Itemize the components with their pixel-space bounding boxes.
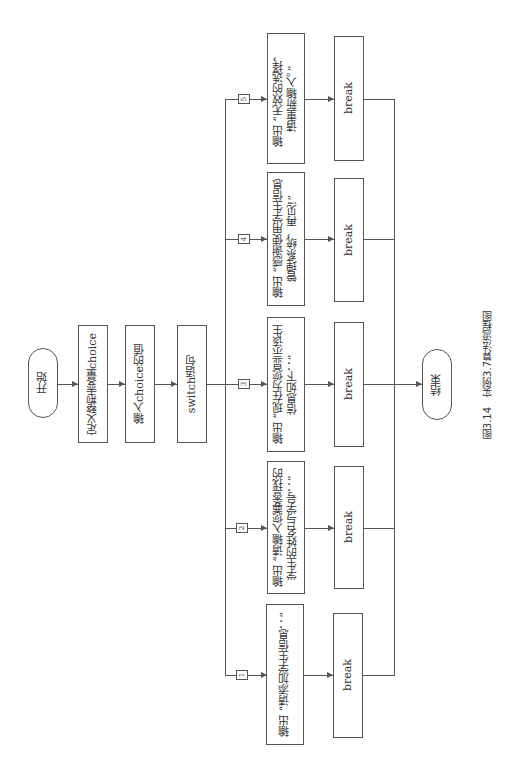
- case-2-action: 输出 “请输入您要查找的 学生的姓名与学号：”: [267, 461, 305, 594]
- connector: [207, 384, 226, 385]
- case-2-break: break: [334, 466, 364, 589]
- step-declare-choice: 定义整型变量choice: [78, 325, 108, 443]
- case-4-action: 输出 “感谢使用学生信息 管理系统，再见!”: [267, 172, 305, 306]
- step-label: 定义整型变量choice: [86, 333, 100, 435]
- start-label: 开始: [36, 372, 50, 394]
- case-1-break: break: [333, 613, 363, 738]
- case-5-action: 输出 “无效的选择， 请重新输入。”: [267, 33, 305, 164]
- connector: [364, 99, 394, 100]
- case-tag-5: 5: [238, 94, 250, 104]
- merge-bus: [394, 99, 395, 676]
- case-tag-1: 1: [236, 670, 248, 680]
- connector: [364, 239, 394, 240]
- connector: [364, 384, 394, 385]
- end-terminal: 结束: [422, 349, 452, 420]
- step-switch: switch语句: [177, 325, 207, 443]
- start-terminal: 开始: [28, 348, 58, 418]
- step-input-choice: 输入choice的值: [125, 325, 155, 443]
- connector: [363, 675, 394, 676]
- branch-bus: [225, 99, 226, 676]
- connector: [364, 528, 394, 529]
- case-1-action: 输出 “请添加学生信息：”: [266, 604, 304, 745]
- case-5-break: break: [334, 36, 364, 161]
- figure-caption: 图3.14 实例3.7算法流程图: [480, 300, 496, 450]
- step-label: switch语句: [185, 355, 199, 413]
- case-3-action: 输出 “现在为您显示该生 信息如下：”: [267, 317, 305, 452]
- end-label: 结束: [430, 374, 444, 396]
- case-tag-2: 2: [236, 523, 248, 533]
- step-label: 输入choice的值: [133, 344, 147, 424]
- case-tag-3: 3: [238, 379, 250, 389]
- case-4-break: break: [334, 178, 364, 302]
- case-tag-4: 4: [238, 234, 250, 244]
- case-3-break: break: [334, 322, 364, 447]
